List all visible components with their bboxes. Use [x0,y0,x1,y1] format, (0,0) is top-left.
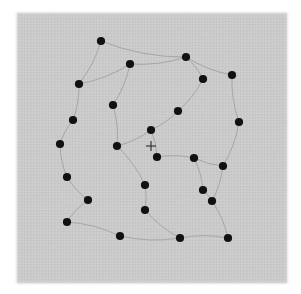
data-point-dot [56,140,64,148]
data-point-dot [182,53,190,61]
data-point-dot [141,181,149,189]
data-point-dot [63,218,71,226]
data-point-dot [63,173,71,181]
figure-root [0,0,301,294]
data-point-dot [153,153,161,161]
data-point-dot [147,126,155,134]
data-point-dot [69,116,77,124]
data-point-dot [141,206,149,214]
data-point-dot [199,186,207,194]
dot-pattern-figure [0,0,301,294]
data-point-dot [97,37,105,45]
data-point-dot [176,234,184,242]
data-point-dot [126,60,134,68]
data-point-dot [116,232,124,240]
data-point-dot [113,142,121,150]
data-point-dot [224,234,232,242]
plate-texture [17,13,287,283]
data-point-dot [190,154,198,162]
data-point-dot [174,107,182,115]
data-point-dot [208,197,216,205]
data-point-dot [199,75,207,83]
data-point-dot [75,80,83,88]
data-point-dot [235,118,243,126]
data-point-dot [228,71,236,79]
data-point-dot [219,162,227,170]
gray-plate [17,13,289,283]
data-point-dot [84,196,92,204]
data-point-dot [109,101,117,109]
